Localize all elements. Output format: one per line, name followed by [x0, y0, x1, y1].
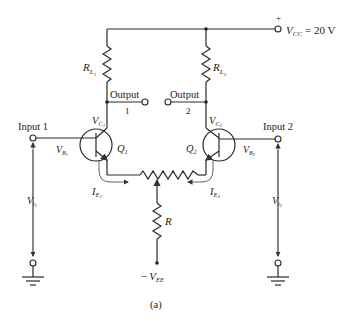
ie1-label: IE1 — [91, 186, 102, 199]
circuit-diagram: + VCC= 20 V RL1 RL2 Output 1 Output 2 — [0, 0, 357, 332]
plus-sign: + — [276, 13, 281, 23]
r-label: R — [164, 215, 172, 227]
figure-caption: (a) — [150, 299, 162, 311]
ie2-arrow — [188, 160, 213, 182]
vcc-terminal — [275, 26, 281, 32]
resistor-r — [153, 198, 161, 265]
output2-label: Output — [170, 89, 199, 100]
ie1-arrow — [99, 160, 128, 182]
ie2-label: IE2 — [209, 186, 220, 199]
input1-terminal[interactable] — [30, 135, 36, 141]
vi2-label: Vi2 — [272, 195, 283, 208]
vcc-rail — [107, 26, 281, 32]
vee-label: −VEE — [141, 270, 164, 283]
vee-terminal — [155, 261, 159, 265]
vc1-label: VC1 — [92, 115, 105, 128]
vb1-label: VB1 — [56, 144, 68, 157]
resistor-rl2 — [202, 29, 210, 102]
vcc-label: VCC= 20 V — [286, 24, 336, 38]
input1-label: Input 1 — [18, 121, 48, 132]
rl2-label: RL2 — [212, 61, 227, 77]
vi1-label: Vi1 — [27, 195, 37, 208]
rl1-label: RL1 — [82, 61, 96, 77]
transistor-q2 — [198, 102, 275, 175]
q1-label: Q1 — [117, 143, 128, 155]
emitter-potentiometer — [140, 171, 198, 198]
output1-number: 1 — [125, 106, 130, 116]
q2-label: Q2 — [186, 143, 198, 155]
input2-terminal[interactable] — [275, 136, 281, 142]
output1-terminal[interactable] — [142, 99, 148, 105]
vb2-label: VB2 — [243, 144, 256, 157]
output2-number: 2 — [186, 106, 191, 116]
output1-label: Output — [110, 89, 139, 100]
input2-source — [267, 136, 289, 285]
transistor-q1 — [33, 102, 140, 175]
input1-source — [22, 135, 44, 285]
input2-label: Input 2 — [263, 121, 293, 132]
vc2-label: VC2 — [209, 115, 223, 128]
